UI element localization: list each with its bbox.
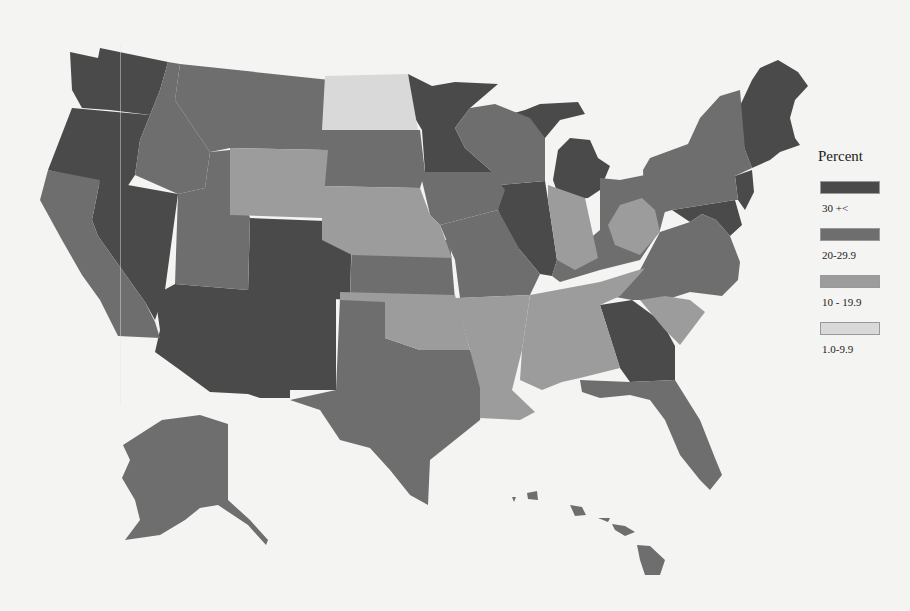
legend-swatch xyxy=(820,275,880,288)
state-nm[interactable] xyxy=(248,290,336,398)
legend-title: Percent xyxy=(818,148,902,165)
state-wy[interactable] xyxy=(230,148,328,218)
legend-label: 30 +< xyxy=(822,202,902,214)
legend-item-10-19: 10 - 19.9 xyxy=(812,275,902,308)
legend-swatch xyxy=(820,181,880,194)
legend: Percent 30 +< 20-29.9 10 - 19.9 1.0-9.9 xyxy=(812,148,902,369)
state-nd[interactable] xyxy=(322,74,418,130)
state-wa[interactable] xyxy=(70,48,168,115)
legend-swatch xyxy=(820,228,880,241)
legend-item-1-9: 1.0-9.9 xyxy=(812,322,902,355)
state-sd[interactable] xyxy=(320,130,425,188)
scan-line-artifact xyxy=(120,45,121,405)
legend-item-20-29: 20-29.9 xyxy=(812,228,902,261)
legend-swatch xyxy=(820,322,880,335)
state-new-england[interactable] xyxy=(738,60,808,168)
legend-label: 1.0-9.9 xyxy=(822,343,902,355)
us-choropleth-map xyxy=(0,0,910,611)
state-ak[interactable] xyxy=(122,415,268,545)
state-hi[interactable] xyxy=(512,491,665,575)
legend-label: 10 - 19.9 xyxy=(822,296,902,308)
state-nj[interactable] xyxy=(735,170,754,210)
state-ny-pa[interactable] xyxy=(643,90,752,218)
legend-label: 20-29.9 xyxy=(822,249,902,261)
state-fl[interactable] xyxy=(580,380,722,490)
bin-1-9 xyxy=(322,74,418,130)
legend-item-30-plus: 30 +< xyxy=(812,181,902,214)
state-az[interactable] xyxy=(155,284,248,394)
